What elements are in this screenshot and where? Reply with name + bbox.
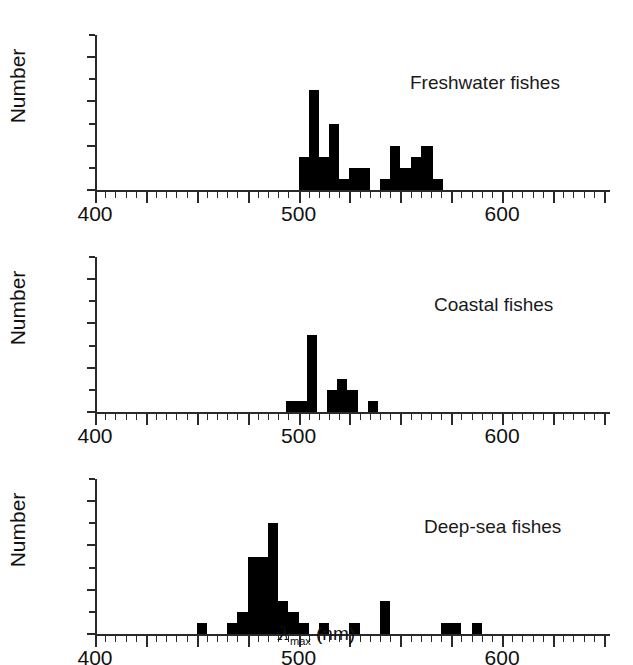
plot-area: 04812 400500600: [95, 257, 610, 412]
histogram-bar: [349, 168, 359, 190]
x-tick: [451, 414, 453, 425]
x-tick: [380, 192, 381, 198]
x-tick: [512, 414, 513, 420]
x-tick: [237, 192, 238, 198]
x-tick: [421, 192, 422, 198]
x-tick: [156, 192, 157, 198]
x-tick: [126, 414, 127, 420]
x-tick-label: 500: [281, 203, 316, 224]
x-tick-label: 400: [77, 203, 112, 224]
x-tick: [431, 414, 432, 420]
x-tick: [380, 414, 381, 420]
y-tick: [87, 145, 95, 147]
x-tick: [451, 192, 453, 203]
y-tick: [87, 322, 95, 324]
histogram-bar: [360, 168, 370, 190]
x-tick: [207, 192, 208, 198]
histogram-bar: [327, 390, 337, 412]
x-tick: [156, 414, 157, 420]
x-tick: [187, 414, 188, 420]
histogram-bar: [411, 157, 421, 190]
x-tick-label: 600: [485, 203, 520, 224]
x-tick: [146, 192, 148, 203]
x-tick: [248, 192, 250, 203]
y-tick: [87, 56, 95, 58]
x-tick: [573, 192, 574, 198]
x-tick: [176, 192, 177, 198]
x-tick: [482, 414, 483, 420]
x-tick: [217, 192, 218, 198]
x-tick: [166, 414, 167, 420]
histogram-bar: [297, 401, 307, 412]
x-tick-label: 500: [281, 647, 316, 665]
x-tick: [258, 192, 259, 198]
panel-title-freshwater: Freshwater fishes: [410, 72, 560, 94]
plot-area: 04812 400500600: [95, 35, 610, 190]
x-tick: [309, 192, 310, 198]
y-axis-label: Number: [6, 0, 28, 38]
x-tick: [217, 414, 218, 420]
x-tick: [339, 414, 340, 420]
x-tick: [584, 192, 585, 198]
lambda-symbol: λ: [278, 622, 290, 644]
x-tick: [126, 192, 127, 198]
x-tick: [522, 192, 523, 198]
x-tick: [461, 414, 462, 420]
x-tick: [288, 414, 289, 420]
histogram-bars: [95, 35, 610, 190]
x-tick: [533, 414, 534, 420]
x-tick: [319, 192, 320, 198]
y-tick: [87, 367, 95, 369]
x-tick: [176, 414, 177, 420]
chart-panel-coastal: Number 04812 400500600 Coastal fishes: [0, 222, 633, 437]
x-tick: [370, 192, 371, 198]
plot-area: 04812 400500600: [95, 479, 610, 634]
x-tick: [339, 192, 340, 198]
x-tick: [431, 192, 432, 198]
x-tick: [400, 414, 402, 425]
x-tick: [349, 414, 351, 425]
y-tick: [87, 189, 95, 191]
x-tick: [370, 414, 371, 420]
x-tick: [136, 192, 137, 198]
y-tick: [87, 411, 95, 413]
x-tick-label: 500: [281, 425, 316, 446]
x-tick: [278, 414, 279, 420]
x-tick: [573, 414, 574, 420]
x-tick: [563, 192, 564, 198]
x-tick-label: 600: [485, 425, 520, 446]
histogram-bar: [339, 179, 349, 190]
x-tick: [482, 192, 483, 198]
x-tick: [146, 414, 148, 425]
histogram-bar: [433, 179, 443, 190]
x-tick: [604, 414, 606, 425]
x-tick: [563, 414, 564, 420]
y-tick: [87, 544, 95, 546]
x-tick: [594, 414, 595, 420]
y-axis-label: Number: [6, 342, 28, 482]
x-tick: [248, 414, 250, 425]
x-axis-label: λmax (nm): [0, 622, 633, 647]
histogram-bar: [390, 146, 400, 190]
x-tick: [441, 192, 442, 198]
x-tick: [411, 414, 412, 420]
x-tick: [187, 192, 188, 198]
x-tick: [105, 192, 106, 198]
y-axis-label: Number: [6, 120, 28, 260]
y-tick: [87, 500, 95, 502]
histogram-bar: [368, 401, 378, 412]
x-tick: [319, 414, 320, 420]
x-tick: [533, 192, 534, 198]
x-tick: [543, 192, 544, 198]
x-tick: [411, 192, 412, 198]
x-tick: [492, 414, 493, 420]
x-tick: [594, 192, 595, 198]
histogram-bar: [319, 157, 329, 190]
histogram-bars: [95, 479, 610, 634]
x-tick: [604, 192, 606, 203]
x-tick: [115, 414, 116, 420]
x-tick: [512, 192, 513, 198]
x-tick: [492, 192, 493, 198]
x-tick: [227, 414, 228, 420]
x-tick-label: 600: [485, 647, 520, 665]
